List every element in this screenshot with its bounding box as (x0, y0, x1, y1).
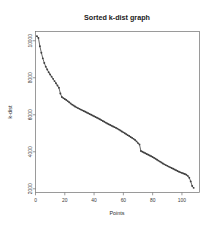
y-tick-label: 2000 (28, 183, 33, 194)
data-point (190, 180, 192, 182)
data-point (57, 85, 59, 87)
chart-title: Sorted k-dist graph (84, 13, 150, 22)
data-point (36, 35, 38, 37)
data-point (43, 62, 45, 64)
data-point (46, 68, 48, 70)
kdist-plot-svg: Sorted k-dist graph 20004000600080001000… (0, 0, 223, 230)
data-point (42, 57, 44, 59)
data-point (55, 82, 57, 84)
y-tick-label: 6000 (28, 109, 33, 120)
data-point (137, 142, 139, 144)
y-tick-label: 8000 (28, 72, 33, 83)
x-tick-label: 80 (150, 198, 156, 203)
data-point (139, 143, 141, 145)
x-tick-label: 20 (62, 198, 68, 203)
data-point (52, 78, 54, 80)
data-point (136, 140, 138, 142)
y-tick-label: 10000 (28, 34, 33, 48)
data-point (51, 76, 53, 78)
x-axis-label: Points (110, 210, 125, 216)
x-tick-label: 100 (178, 198, 186, 203)
data-point (68, 101, 70, 103)
data-point (40, 52, 42, 54)
data-point (191, 185, 193, 187)
data-point (54, 80, 56, 82)
data-point (49, 73, 51, 75)
data-point (58, 87, 60, 89)
y-axis-label: k-dist (7, 105, 13, 118)
x-tick-label: 60 (121, 198, 127, 203)
x-tick-label: 0 (34, 198, 37, 203)
data-point (37, 37, 39, 39)
data-point (134, 139, 136, 141)
data-point (59, 93, 61, 95)
data-point (187, 175, 189, 177)
x-tick-label: 40 (91, 198, 97, 203)
y-tick-label: 4000 (28, 146, 33, 157)
data-point (193, 187, 195, 189)
data-point (45, 66, 47, 68)
chart-figure: Sorted k-dist graph 20004000600080001000… (0, 0, 223, 230)
data-point (39, 45, 41, 47)
data-point (188, 177, 190, 179)
data-point (48, 71, 50, 73)
